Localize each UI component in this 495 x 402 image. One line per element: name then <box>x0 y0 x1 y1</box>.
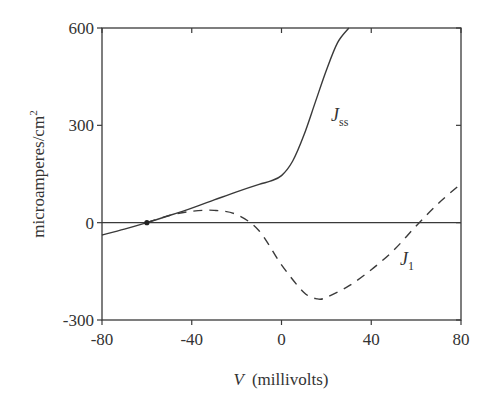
resting-potential-marker <box>144 220 149 225</box>
x-tick-label: -40 <box>180 330 203 349</box>
y-axis-label: microamperes/cm2 <box>27 110 48 237</box>
x-axis-label: V(millivolts) <box>234 370 329 389</box>
x-tick-label: -80 <box>91 330 114 349</box>
curve-jss <box>102 28 349 235</box>
curve-label-jss: Jss <box>331 105 349 129</box>
curve-j1 <box>147 184 461 300</box>
y-tick-label: 300 <box>69 116 95 135</box>
y-tick-label: 0 <box>86 214 95 233</box>
axis-ticks: -80-4004080-3000300600 <box>63 19 470 349</box>
y-tick-label: 600 <box>69 19 95 38</box>
y-tick-label: -300 <box>63 311 94 330</box>
x-tick-label: 40 <box>363 330 380 349</box>
curve-label-j1: J1 <box>400 249 414 273</box>
x-tick-label: 80 <box>453 330 470 349</box>
chart: -80-4004080-3000300600 Jss J1 V(millivol… <box>0 0 495 402</box>
plot-frame <box>102 28 461 320</box>
x-tick-label: 0 <box>277 330 286 349</box>
plot-border <box>102 28 461 320</box>
